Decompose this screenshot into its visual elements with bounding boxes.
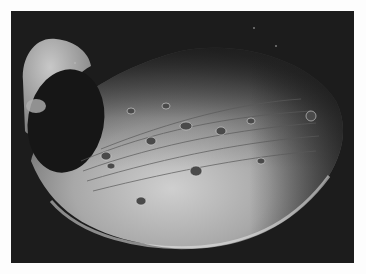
moon-illustration xyxy=(11,11,354,263)
moon-photograph xyxy=(11,11,354,263)
